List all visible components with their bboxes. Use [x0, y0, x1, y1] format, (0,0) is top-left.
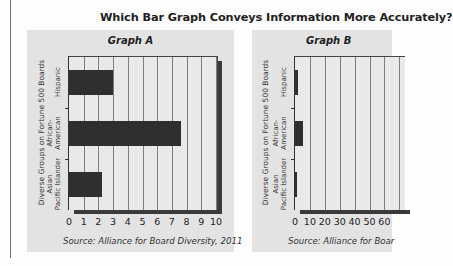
gridline: [325, 57, 326, 210]
x-tick-label: 50: [363, 216, 375, 227]
graph-a-y-axis-title: Diverse Groups on Fortune 500 Boards: [37, 53, 46, 213]
x-tick-label: 8: [184, 216, 190, 227]
x-tick-label: 9: [198, 216, 204, 227]
x-tick-label: 4: [125, 216, 131, 227]
graph-b-y-axis-title: Diverse Groups on Fortune 500 Boards: [261, 53, 270, 213]
gridline: [355, 57, 356, 210]
gridline: [370, 57, 371, 210]
x-tick-label: 1: [81, 216, 87, 227]
x-tick-label: 10: [210, 216, 222, 227]
category-label-line: Pacific Islander: [280, 154, 288, 214]
x-tick-label: 3: [110, 216, 116, 227]
category-label-line: Pacific Islander: [54, 154, 62, 214]
category-label-asian-pacific-islander: AsianPacific Islander: [46, 154, 62, 214]
graph-a-plot-shadow-right: [218, 61, 222, 213]
page-title: Which Bar Graph Conveys Information More…: [100, 11, 400, 24]
bar-hispanic: [295, 70, 298, 96]
category-label-line: Asian: [46, 154, 54, 214]
x-tick-label: 2: [95, 216, 101, 227]
bar-asian-pacific-islander: [295, 172, 297, 198]
category-tick: [291, 159, 295, 160]
x-tick-label: 6: [154, 216, 160, 227]
x-tick-label: 30: [334, 216, 346, 227]
gridline: [340, 57, 341, 210]
gridline: [216, 57, 217, 210]
graph-a-source: Source: Alliance for Board Diversity, 20…: [63, 236, 242, 246]
category-label-line: Asian: [272, 154, 280, 214]
category-tick: [65, 159, 69, 160]
gridline: [187, 57, 188, 210]
x-tick-label: 10: [304, 216, 316, 227]
bar-african-american: [69, 121, 181, 147]
graph-a-panel: Graph A Diverse Groups on Fortune 500 Bo…: [27, 30, 234, 252]
graph-a-plot-shadow-bottom: [74, 210, 222, 214]
x-tick-label: 0: [66, 216, 72, 227]
bar-hispanic: [69, 70, 113, 96]
graph-b-panel: Graph B Diverse Groups on Fortune 500 Bo…: [252, 30, 392, 252]
gridline: [201, 57, 202, 210]
graph-b-plot-shadow-bottom: [300, 210, 410, 214]
graph-a-plot-area: [68, 56, 218, 210]
x-tick-label: 7: [169, 216, 175, 227]
gridline: [384, 57, 385, 210]
gridline: [310, 57, 311, 210]
category-label-asian-pacific-islander: AsianPacific Islander: [272, 154, 288, 214]
x-tick-label: 0: [292, 216, 298, 227]
graph-b-title: Graph B: [306, 35, 351, 46]
category-tick: [291, 108, 295, 109]
graph-a-title: Graph A: [27, 35, 234, 46]
gridline: [399, 57, 400, 210]
x-tick-label: 40: [349, 216, 361, 227]
page-left-border: [10, 0, 11, 258]
graph-b-plot-area: [294, 56, 405, 210]
bar-asian-pacific-islander: [69, 172, 102, 198]
graph-b-source: Source: Alliance for Boar: [288, 236, 394, 246]
bar-african-american: [295, 121, 303, 147]
x-tick-label: 20: [319, 216, 331, 227]
category-tick: [65, 108, 69, 109]
x-tick-label: 5: [139, 216, 145, 227]
x-tick-label: 60: [378, 216, 390, 227]
